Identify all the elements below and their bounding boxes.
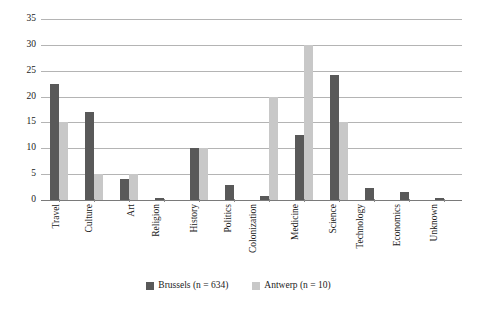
bars-layer	[41, 19, 462, 200]
legend-swatch-icon	[146, 282, 154, 290]
bar-chart-figure: 05101520253035 TravelCultureArtReligionH…	[0, 0, 477, 311]
bar-group	[41, 19, 76, 200]
x-axis-tick-label: Culture	[84, 204, 94, 233]
x-axis-tick-slot: Colonization	[251, 202, 286, 274]
x-axis-tick-slot: Science	[322, 202, 357, 274]
x-axis-tick-mark	[129, 199, 130, 202]
x-axis-tick-mark	[444, 199, 445, 202]
x-axis-tick-slot: Culture	[76, 202, 111, 274]
bar-antwerp	[199, 148, 208, 200]
legend-label: Antwerp (n = 10)	[264, 281, 330, 291]
x-axis-tick-label: Colonization	[249, 204, 259, 253]
bar-group	[357, 19, 392, 200]
bar-antwerp	[304, 45, 313, 200]
y-axis-tick-label: 15	[27, 118, 37, 128]
bar-group	[287, 19, 322, 200]
x-axis-tick-slot: Unknown	[427, 202, 462, 274]
bar-group	[111, 19, 146, 200]
bar-brussels	[260, 196, 269, 200]
bar-brussels	[400, 192, 409, 200]
y-axis-tick-label: 0	[31, 195, 36, 205]
x-axis-tick-mark	[59, 199, 60, 202]
x-axis-tick-label: Technology	[357, 204, 367, 249]
y-axis-tick-label: 5	[31, 169, 36, 179]
x-axis-tick-mark	[269, 199, 270, 202]
bar-brussels	[50, 84, 59, 200]
bar-brussels	[330, 75, 339, 200]
x-axis-tick-mark	[339, 199, 340, 202]
bar-antwerp	[269, 97, 278, 200]
bar-group	[251, 19, 286, 200]
legend-item-brussels[interactable]: Brussels (n = 634)	[146, 281, 228, 291]
x-axis-tick-label: Politics	[224, 204, 234, 233]
x-axis-tick-mark	[199, 199, 200, 202]
bar-brussels	[120, 179, 129, 200]
x-axis-tick-label: Art	[127, 204, 137, 217]
x-axis-tick-label: Travel	[51, 204, 61, 228]
bar-antwerp	[129, 174, 138, 200]
x-axis-tick-slot: Travel	[41, 202, 76, 274]
x-axis-tick-slot: Technology	[357, 202, 392, 274]
bar-brussels	[225, 185, 234, 201]
x-axis-baseline	[41, 200, 462, 201]
bar-brussels	[435, 198, 444, 200]
x-axis-tick-mark	[234, 199, 235, 202]
x-axis-tick-mark	[304, 199, 305, 202]
y-axis-tick-label: 20	[27, 92, 37, 102]
legend-item-antwerp[interactable]: Antwerp (n = 10)	[252, 281, 330, 291]
x-axis-tick-slot: History	[181, 202, 216, 274]
x-axis-tick-label: History	[189, 204, 199, 233]
x-axis-tick-slot: Politics	[216, 202, 251, 274]
bar-antwerp	[339, 122, 348, 200]
bar-group	[392, 19, 427, 200]
bar-group	[427, 19, 462, 200]
bar-group	[146, 19, 181, 200]
bar-group	[216, 19, 251, 200]
x-axis-tick-label: Science	[329, 204, 339, 234]
bar-group	[181, 19, 216, 200]
x-axis-tick-label: Economics	[393, 204, 403, 246]
x-axis-tick-slot: Art	[111, 202, 146, 274]
x-axis-tick-mark	[164, 199, 165, 202]
bar-brussels	[155, 198, 164, 200]
x-axis-tick-label: Religion	[152, 204, 162, 237]
bar-group	[76, 19, 111, 200]
chart-legend: Brussels (n = 634)Antwerp (n = 10)	[0, 281, 477, 291]
legend-swatch-icon	[252, 282, 260, 290]
y-axis-tick-label: 25	[27, 66, 37, 76]
bar-brussels	[295, 135, 304, 200]
bar-brussels	[190, 148, 199, 200]
x-axis-tick-slot: Economics	[392, 202, 427, 274]
legend-label: Brussels (n = 634)	[158, 281, 228, 291]
y-axis-tick-label: 10	[27, 144, 37, 154]
x-axis-tick-label: Unknown	[430, 204, 440, 241]
plot-area: 05101520253035	[41, 19, 462, 200]
bar-brussels	[85, 112, 94, 200]
bar-group	[322, 19, 357, 200]
y-axis-tick-label: 35	[27, 14, 37, 24]
y-axis-tick-label: 30	[27, 40, 37, 50]
bar-brussels	[365, 188, 374, 200]
x-axis-tick-slot: Religion	[146, 202, 181, 274]
x-axis-tick-mark	[409, 199, 410, 202]
bar-antwerp	[94, 174, 103, 200]
x-axis-tick-mark	[94, 199, 95, 202]
x-axis-tick-label: Medicine	[291, 204, 301, 240]
x-axis-labels: TravelCultureArtReligionHistoryPoliticsC…	[41, 202, 462, 274]
x-axis-tick-slot: Medicine	[287, 202, 322, 274]
bar-antwerp	[59, 122, 68, 200]
x-axis-tick-mark	[374, 199, 375, 202]
